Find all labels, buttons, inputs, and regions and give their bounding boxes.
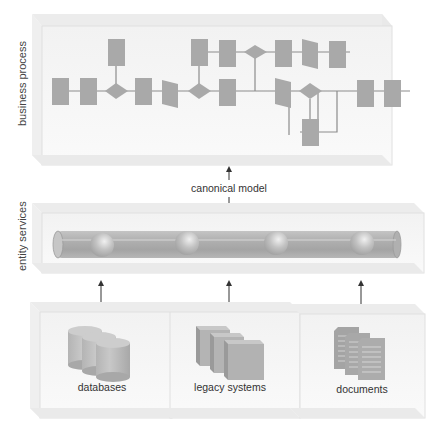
process-step [275, 40, 292, 67]
process-step [302, 119, 319, 146]
documents-label: documents [320, 383, 404, 395]
process-step [219, 40, 236, 67]
process-step [329, 41, 346, 68]
io-step [302, 39, 318, 69]
service-node [175, 231, 199, 255]
process-step [108, 39, 125, 66]
process-step [135, 78, 152, 105]
service-node [264, 231, 288, 255]
process-step [384, 80, 401, 107]
io-step [275, 78, 291, 108]
legacy-systems-label: legacy systems [185, 381, 275, 393]
process-step [80, 78, 97, 105]
service-node [90, 233, 114, 257]
service-node [350, 231, 374, 255]
business-process-label: business process [16, 41, 28, 126]
canonical-model-label: canonical model [189, 182, 269, 194]
process-step [357, 80, 374, 107]
entity-services-label: entity services [16, 201, 28, 271]
service-bus-pipe [53, 231, 401, 258]
process-step [52, 78, 69, 105]
process-step [219, 79, 236, 106]
io-step [162, 80, 178, 108]
databases-label: databases [60, 381, 144, 393]
process-step [191, 39, 208, 66]
architecture-diagram [0, 0, 435, 433]
